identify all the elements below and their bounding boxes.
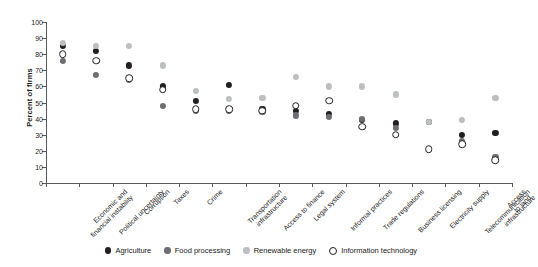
legend-swatch-agriculture-icon [105, 247, 112, 254]
legend-item-renewable[interactable]: Renewable energy [243, 246, 316, 255]
data-point-infotech-0 [59, 50, 67, 58]
data-point-renewable-4 [193, 88, 199, 94]
data-point-infotech-2 [125, 75, 133, 83]
x-tick-mark [179, 183, 180, 187]
data-point-renewable-12 [459, 117, 465, 123]
data-point-infotech-10 [392, 131, 400, 139]
x-axis-label-3: Taxes [172, 188, 191, 207]
y-tick-label: 40 [35, 115, 43, 122]
data-point-infotech-8 [325, 97, 333, 105]
x-tick-mark [146, 183, 147, 187]
data-point-agriculture-4 [193, 98, 199, 104]
y-tick-label: 50 [35, 99, 43, 106]
x-tick-mark [279, 183, 280, 187]
data-point-renewable-11 [426, 119, 432, 125]
y-tick-label: 30 [35, 131, 43, 138]
x-tick-mark [512, 183, 513, 187]
x-tick-mark [113, 183, 114, 187]
legend-label: Information technology [341, 246, 417, 255]
data-point-renewable-7 [293, 74, 299, 80]
plot-area: 0102030405060708090100 [46, 22, 512, 183]
y-tick-label: 90 [35, 35, 43, 42]
data-point-infotech-3 [159, 86, 167, 94]
x-tick-mark [79, 183, 80, 187]
y-tick-label: 100 [31, 19, 43, 26]
data-point-infotech-11 [425, 145, 433, 153]
data-point-renewable-5 [226, 96, 232, 102]
data-point-renewable-3 [159, 62, 165, 68]
x-tick-mark [212, 183, 213, 187]
data-point-renewable-2 [126, 43, 132, 49]
x-tick-mark [246, 183, 247, 187]
x-axis-label-4: Crime [205, 188, 224, 207]
legend-swatch-infotech-icon [329, 247, 337, 255]
data-point-food-7 [293, 112, 299, 118]
legend-label: Food processing [175, 246, 230, 255]
y-tick-label: 20 [35, 147, 43, 154]
legend-item-infotech[interactable]: Information technology [329, 246, 417, 255]
x-tick-mark [445, 183, 446, 187]
data-point-infotech-12 [458, 141, 466, 149]
data-point-infotech-13 [492, 157, 500, 165]
data-point-food-0 [60, 58, 66, 64]
data-point-infotech-1 [92, 57, 100, 65]
data-point-infotech-4 [192, 105, 200, 113]
y-tick-label: 80 [35, 51, 43, 58]
y-axis-title: Percent of firms [25, 28, 34, 168]
x-tick-mark [412, 183, 413, 187]
data-point-renewable-10 [392, 91, 398, 97]
data-point-infotech-5 [225, 105, 233, 113]
x-tick-mark [379, 183, 380, 187]
legend-item-food[interactable]: Food processing [164, 246, 230, 255]
data-point-food-3 [159, 103, 165, 109]
y-tick-label: 70 [35, 67, 43, 74]
data-point-food-8 [326, 114, 332, 120]
data-point-agriculture-5 [226, 82, 232, 88]
y-tick-label: 60 [35, 83, 43, 90]
legend-label: Agriculture [115, 246, 151, 255]
x-tick-mark [312, 183, 313, 187]
legend-label: Renewable energy [254, 246, 317, 255]
data-point-renewable-13 [492, 95, 498, 101]
data-point-agriculture-13 [492, 130, 498, 136]
data-point-agriculture-2 [126, 62, 132, 68]
data-point-food-1 [93, 72, 99, 78]
data-point-agriculture-12 [459, 132, 465, 138]
x-tick-mark [46, 183, 47, 187]
x-tick-mark [479, 183, 480, 187]
data-point-infotech-9 [358, 123, 366, 131]
data-point-renewable-8 [326, 83, 332, 89]
data-point-renewable-6 [259, 95, 265, 101]
x-tick-mark [346, 183, 347, 187]
legend-swatch-renewable-icon [243, 247, 250, 254]
chart-legend: AgricultureFood processingRenewable ener… [0, 246, 522, 255]
data-point-renewable-9 [359, 83, 365, 89]
legend-item-agriculture[interactable]: Agriculture [105, 246, 151, 255]
data-point-infotech-6 [259, 107, 267, 115]
y-tick-label: 10 [35, 163, 43, 170]
legend-swatch-food-icon [164, 247, 171, 254]
data-point-infotech-7 [292, 102, 300, 110]
y-tick-label: 0 [39, 180, 43, 187]
